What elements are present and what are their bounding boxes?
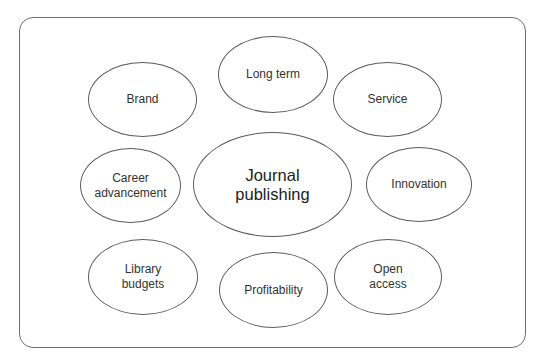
node-journal-publishing: Journal publishing <box>193 132 352 237</box>
node-library-budgets: Library budgets <box>88 239 198 315</box>
node-career-advancement: Career advancement <box>80 148 181 223</box>
node-label: Library budgets <box>122 262 165 292</box>
node-label: Innovation <box>391 177 446 192</box>
node-label: Brand <box>126 92 158 107</box>
node-service: Service <box>333 62 442 137</box>
node-brand: Brand <box>88 62 197 137</box>
node-label: Service <box>367 92 407 107</box>
center-label: Journal publishing <box>235 166 309 204</box>
node-label: Profitability <box>244 283 303 298</box>
node-profitability: Profitability <box>219 252 328 328</box>
node-label: Career advancement <box>94 171 166 201</box>
node-label: Open access <box>369 262 406 292</box>
node-open-access: Open access <box>334 239 442 315</box>
node-innovation: Innovation <box>366 147 472 222</box>
node-label: Long term <box>246 67 300 82</box>
node-long-term: Long term <box>218 36 328 113</box>
